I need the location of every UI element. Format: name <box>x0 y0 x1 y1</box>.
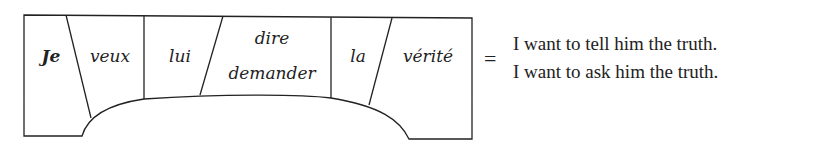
translation-2: I want to ask him the truth. <box>513 60 718 83</box>
slot-verb-dire: dire <box>222 28 322 48</box>
slot-la: la <box>336 46 380 66</box>
divider-je-veux <box>66 15 91 118</box>
slot-verite: vérité <box>388 46 468 66</box>
slot-je: Je <box>34 46 68 66</box>
slot-veux: veux <box>82 46 138 66</box>
slot-verb-demander: demander <box>216 63 328 83</box>
equals-sign: = <box>484 46 496 72</box>
translation-1: I want to tell him the truth. <box>513 32 717 55</box>
slot-lui: lui <box>156 46 204 66</box>
